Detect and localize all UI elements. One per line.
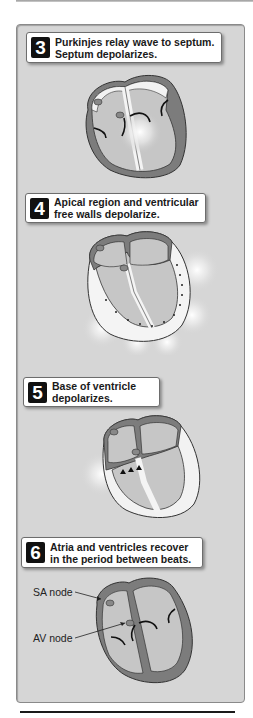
step-number-badge: 4 xyxy=(30,198,49,219)
bottom-rule xyxy=(20,711,235,713)
sa-node-label: SA node xyxy=(33,586,73,598)
top-rule xyxy=(16,0,253,2)
step-description: Apical region and ventricular free walls… xyxy=(54,196,199,220)
step-description: Base of ventricle depolarizes. xyxy=(52,380,136,404)
step-description: Purkinjes relay wave to septum. Septum d… xyxy=(55,36,214,60)
step-5-label: 5 Base of ventricle depolarizes. xyxy=(23,377,160,407)
heart-ventricle-base-depolarized-illustration xyxy=(76,412,208,522)
step-6-label: 6 Atria and ventricles recover in the pe… xyxy=(21,537,203,568)
heart-septum-depolarized-illustration xyxy=(80,70,195,182)
step-number-badge: 5 xyxy=(28,382,47,403)
step-number-badge: 6 xyxy=(26,542,45,563)
step-4-label: 4 Apical region and ventricular free wal… xyxy=(25,193,206,223)
step-description: Atria and ventricles recover in the peri… xyxy=(50,541,191,565)
step-number-badge: 3 xyxy=(31,37,50,58)
av-node-label: AV node xyxy=(33,632,73,644)
heart-apex-free-walls-depolarized-illustration xyxy=(72,230,222,355)
step-3-label: 3 Purkinjes relay wave to septum. Septum… xyxy=(26,32,222,63)
